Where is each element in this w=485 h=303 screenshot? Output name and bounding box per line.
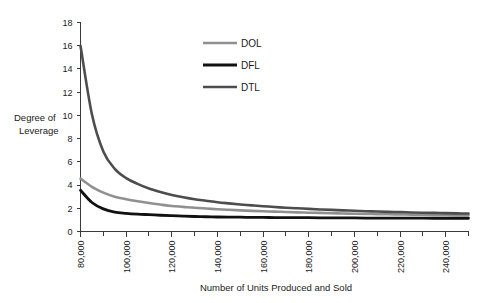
y-axis-tick-label: 10 [62,111,72,121]
y-axis-tick-label: 12 [62,88,72,98]
y-axis-tick-label: 16 [62,41,72,51]
y-axis-tick-label: 0 [67,227,72,237]
x-axis-tick-label: 180,000 [304,241,314,274]
x-axis-tick-label: 80,000 [76,241,86,269]
x-axis-tick-label: 240,000 [441,241,451,274]
legend-label-dtl: DTL [241,82,260,93]
x-axis-tick-label: 200,000 [350,241,360,274]
legend-label-dfl: DFL [241,60,260,71]
x-axis-title: Number of Units Produced and Sold [200,282,352,293]
leverage-line-chart: 024681012141618 80,000100,000120,000140,… [0,0,485,303]
x-axis-tick-label: 140,000 [213,241,223,274]
y-axis-tick-label: 2 [67,204,72,214]
chart-container: 024681012141618 80,000100,000120,000140,… [0,0,485,303]
x-axis-tick-label: 100,000 [122,241,132,274]
legend-label-dol: DOL [241,38,262,49]
x-axis-tick-label: 120,000 [167,241,177,274]
y-axis-tick-label: 6 [67,157,72,167]
x-axis-tick-label: 220,000 [396,241,406,274]
x-axis-tick-label: 160,000 [259,241,269,274]
y-axis-tick-label: 18 [62,18,72,28]
y-axis-tick-label: 14 [62,64,72,74]
y-axis-tick-label: 4 [67,180,72,190]
y-axis-title-line-1: Degree of [14,112,56,123]
y-axis-title-line-2: Leverage [19,125,59,136]
y-axis-tick-label: 8 [67,134,72,144]
